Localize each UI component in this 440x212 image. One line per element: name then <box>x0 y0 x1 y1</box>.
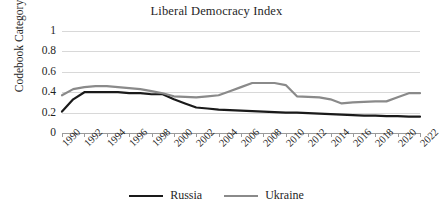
y-axis-tick-label: 0.8 <box>26 44 56 56</box>
y-axis-tick-label: 0.2 <box>26 106 56 118</box>
legend-item-russia[interactable]: Russia <box>129 188 202 203</box>
x-axis-tick-mark <box>107 133 108 137</box>
y-axis-tick-label: 0.6 <box>26 65 56 77</box>
legend-item-ukraine[interactable]: Ukraine <box>224 188 304 203</box>
series-lines <box>62 31 420 133</box>
plot-area <box>62 31 420 133</box>
x-axis-tick-mark <box>286 133 287 137</box>
x-axis-tick-label: 2022 <box>418 126 440 148</box>
x-axis-tick-mark <box>152 133 153 137</box>
y-axis-label: Codebook Category <box>13 0 25 106</box>
legend-label: Russia <box>170 188 202 203</box>
x-axis-tick-mark <box>219 133 220 137</box>
legend-label: Ukraine <box>265 188 304 203</box>
chart-legend: RussiaUkraine <box>0 188 433 203</box>
legend-line-swatch <box>224 195 258 197</box>
chart-title: Liberal Democracy Index <box>0 4 433 19</box>
series-line-russia <box>62 92 420 116</box>
x-axis-tick-mark <box>398 133 399 137</box>
legend-line-swatch <box>129 195 163 197</box>
y-axis-tick-label: 0 <box>26 126 56 138</box>
y-axis-tick-label: 0.4 <box>26 85 56 97</box>
y-axis-tick-label: 1 <box>26 24 56 36</box>
x-axis-tick-mark <box>331 133 332 137</box>
